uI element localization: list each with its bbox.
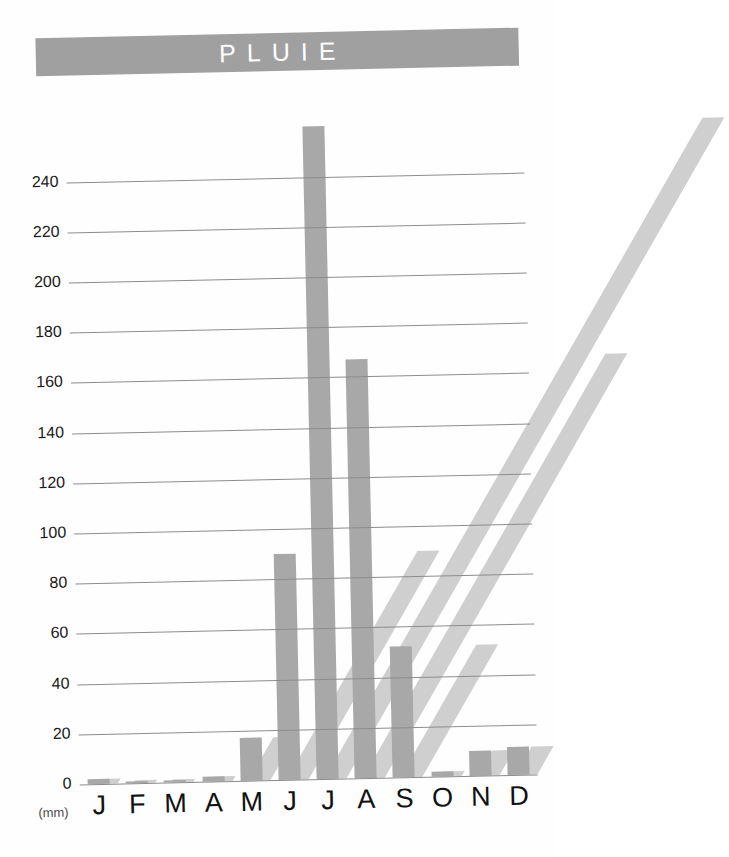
gridline <box>75 574 533 585</box>
x-axis-tick-label: O <box>432 782 454 813</box>
gridline <box>71 373 529 384</box>
gridline <box>70 323 528 334</box>
y-axis-tick-label: 200 <box>34 273 61 292</box>
gridline <box>73 473 531 484</box>
x-axis-tick-label: M <box>164 788 187 819</box>
plot-area <box>65 83 538 785</box>
x-axis-tick-label: J <box>92 790 106 821</box>
y-axis-tick-label: 40 <box>51 674 69 692</box>
y-axis-tick-label: 220 <box>33 223 60 242</box>
bar[interactable] <box>390 647 415 778</box>
gridline <box>74 523 532 534</box>
x-axis-tick-label: S <box>395 783 414 814</box>
y-axis-tick-label: 80 <box>49 574 67 592</box>
bar[interactable] <box>239 738 262 781</box>
bar[interactable] <box>302 126 338 779</box>
y-axis: 240220200180160140120100806040200 <box>0 93 72 786</box>
y-axis-tick-label: 140 <box>37 423 64 442</box>
bar-shadow <box>325 118 725 779</box>
x-axis-tick-label: D <box>509 781 529 812</box>
x-axis-tick-label: A <box>204 787 223 818</box>
y-axis-tick-label: 60 <box>50 624 68 642</box>
x-axis-tick-label: M <box>240 786 263 817</box>
gridline <box>79 724 537 735</box>
bar[interactable] <box>507 747 530 775</box>
bar[interactable] <box>346 359 377 779</box>
gridline <box>67 172 525 183</box>
y-axis-tick-label: 180 <box>35 323 62 342</box>
y-axis-tick-label: 20 <box>53 724 71 742</box>
y-axis-tick-label: 160 <box>36 373 63 392</box>
x-axis-tick-label: J <box>283 786 297 817</box>
y-axis-tick-label: 120 <box>38 473 65 492</box>
y-axis-tick-label: 240 <box>32 172 59 191</box>
y-axis-tick-label: 100 <box>39 524 66 543</box>
tilted-content-group: PLUIE 240220200180160140120100806040200 … <box>0 0 565 857</box>
x-axis-tick-label: F <box>129 789 146 820</box>
bar[interactable] <box>469 750 492 776</box>
unit-label: (mm) <box>38 805 69 821</box>
page-title: PLUIE <box>208 36 347 68</box>
x-axis: JFMAMJJASOND <box>80 780 539 830</box>
title-banner: PLUIE <box>35 28 519 77</box>
bar[interactable] <box>274 554 301 780</box>
gridline <box>69 273 527 284</box>
gridline <box>68 222 526 233</box>
gridline <box>72 423 530 434</box>
x-axis-tick-label: A <box>357 784 376 815</box>
y-axis-tick-label: 0 <box>63 775 72 793</box>
x-axis-tick-label: N <box>471 781 491 812</box>
x-axis-tick-label: J <box>321 785 335 816</box>
